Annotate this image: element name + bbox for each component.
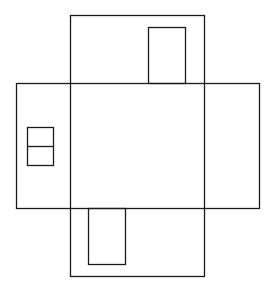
diagram-svg — [0, 0, 270, 289]
top-inner-rect — [149, 28, 186, 84]
bottom-inner-rect — [89, 209, 126, 265]
diagram-canvas — [0, 0, 270, 289]
vertical-band — [71, 16, 205, 277]
